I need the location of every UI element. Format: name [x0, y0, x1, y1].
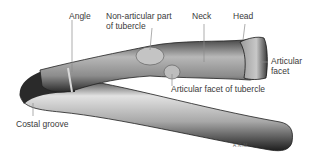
- label-angle: Angle: [69, 11, 91, 21]
- label-articular-facet-of-tubercle: Articular facet of tubercle: [171, 84, 265, 94]
- label-costal-groove: Costal groove: [16, 119, 68, 129]
- label-non-articular-part: Non-articular part: [106, 11, 172, 21]
- artist-signature: A.K.M.: [233, 143, 250, 148]
- label-non-articular-part-line2: of tubercle: [106, 21, 146, 31]
- label-head: Head: [233, 11, 253, 21]
- label-neck: Neck: [192, 11, 211, 21]
- label-articular-facet: Articular: [271, 56, 302, 66]
- rib-illustration: [0, 0, 320, 166]
- label-articular-facet-line2: facet: [271, 66, 289, 76]
